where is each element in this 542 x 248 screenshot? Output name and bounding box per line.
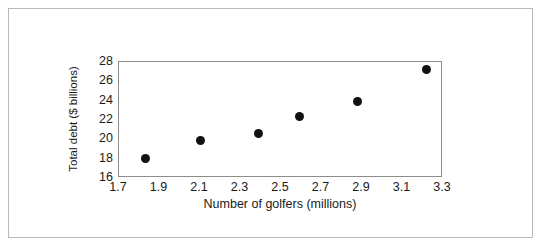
y-tick-label: 28 [99, 55, 113, 68]
x-tick-label: 2.3 [231, 179, 248, 195]
y-axis-tick-labels: 16182022242628 [89, 61, 113, 177]
data-point [422, 65, 431, 74]
plot-area [118, 61, 442, 177]
figure-container: Total debt ($ billions) 16182022242628 1… [8, 8, 533, 238]
x-tick-label: 1.7 [109, 179, 126, 195]
x-tick-label: 2.5 [271, 179, 288, 195]
data-point [196, 136, 205, 145]
x-tick-label: 2.7 [312, 179, 329, 195]
data-point [141, 154, 150, 163]
x-tick-label: 3.3 [433, 179, 450, 195]
y-axis-title: Total debt ($ billions) [65, 61, 81, 177]
x-axis-tick-labels: 1.71.92.12.32.52.72.93.13.3 [118, 179, 442, 195]
y-tick-label: 24 [99, 93, 113, 106]
y-tick-label: 20 [99, 132, 113, 145]
x-tick-label: 2.1 [190, 179, 207, 195]
x-axis-title: Number of golfers (millions) [118, 197, 442, 211]
x-tick-label: 3.1 [393, 179, 410, 195]
data-point [254, 129, 263, 138]
y-tick-label: 22 [99, 113, 113, 126]
x-tick-label: 2.9 [352, 179, 369, 195]
x-tick-label: 1.9 [150, 179, 167, 195]
data-point [353, 97, 362, 106]
data-point [295, 112, 304, 121]
y-tick-label: 26 [99, 74, 113, 87]
scatter-points-layer [119, 62, 441, 176]
y-tick-label: 18 [99, 151, 113, 164]
